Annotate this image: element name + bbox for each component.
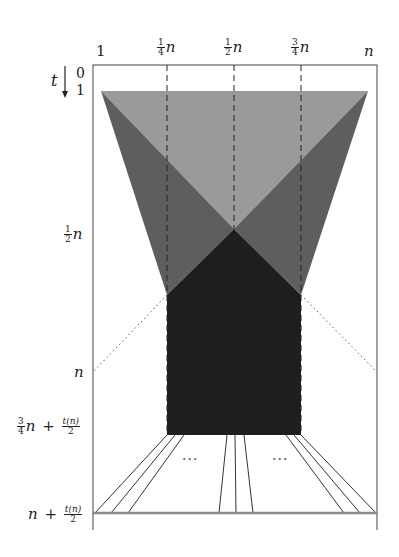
ellipsis-right: ··· (272, 452, 288, 466)
ellipsis-left: ··· (182, 452, 198, 466)
y-label-n-plus: n + t(n)2 (28, 505, 83, 524)
y-label-0: 0 (76, 66, 85, 80)
frac-den: 2 (64, 235, 72, 244)
var-n: n (233, 38, 243, 56)
x-label-three-quarter-n: 34n (291, 38, 309, 57)
x-label-1: 1 (96, 44, 106, 59)
plus-sign: + (42, 417, 55, 435)
plus-sign: + (44, 505, 57, 523)
x-label-quarter-n: 14n (157, 38, 175, 57)
y-label-n: n (74, 365, 84, 380)
dotted-right (301, 295, 377, 372)
fan-lines (95, 435, 376, 513)
x-label-n: n (364, 44, 374, 59)
frac-den: 2 (69, 515, 77, 524)
y-label-three-quarter-n-plus: 34n + t(n)2 (17, 417, 81, 436)
y-label-1: 1 (76, 83, 85, 97)
var-n: n (26, 417, 36, 435)
var-n: n (28, 505, 38, 523)
space-time-diagram (0, 0, 399, 557)
y-axis-label-t: t (51, 73, 57, 89)
down-arrow-head (62, 91, 68, 98)
dotted-left (93, 295, 167, 372)
frac-den: 4 (157, 48, 165, 57)
var-n: n (73, 225, 83, 243)
frac-den: 4 (291, 48, 299, 57)
var-n: n (300, 38, 310, 56)
frac-den: 2 (67, 427, 75, 436)
x-label-half-n: 12n (224, 38, 242, 57)
y-label-half-n: 12n (64, 225, 82, 244)
frac-den: 2 (224, 48, 232, 57)
frac-den: 4 (17, 427, 25, 436)
var-n: n (166, 38, 176, 56)
